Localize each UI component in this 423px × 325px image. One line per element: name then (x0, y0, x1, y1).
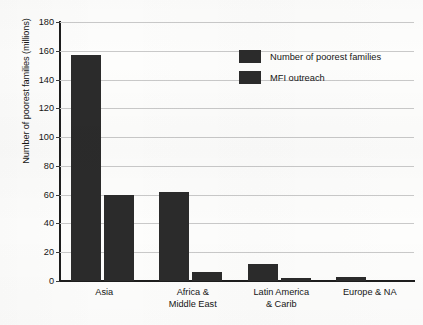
bar (159, 192, 189, 281)
y-axis-tick-label: 120 (28, 103, 54, 113)
gridline (60, 108, 414, 109)
y-axis-tick-mark (56, 223, 60, 224)
y-axis-tick-label: 20 (28, 247, 54, 257)
y-axis-tick-label: 100 (28, 132, 54, 142)
legend-label: MFI outreach (270, 73, 325, 83)
y-axis-tick-label: 140 (28, 75, 54, 85)
bar (71, 55, 101, 281)
gridline (60, 166, 414, 167)
bar (248, 264, 278, 281)
y-axis-tick-labels: 020406080100120140160180 (26, 22, 54, 281)
legend-item: MFI outreach (239, 71, 381, 84)
x-axis-category-label: Europe & NA (314, 287, 423, 299)
y-axis-tick-mark (56, 281, 60, 282)
y-axis-tick-mark (56, 195, 60, 196)
x-axis-category-label-line: & Carib (225, 299, 338, 311)
x-axis-category-label-line: Europe & NA (314, 287, 423, 299)
y-axis-tick-mark (56, 166, 60, 167)
bar (281, 278, 311, 281)
y-axis-tick-label: 160 (28, 46, 54, 56)
bar (336, 277, 366, 281)
legend-item: Number of poorest families (239, 50, 381, 63)
legend-label: Number of poorest families (270, 52, 381, 62)
y-axis-tick-mark (56, 137, 60, 138)
y-axis-tick-mark (56, 51, 60, 52)
bar (192, 272, 222, 281)
y-axis-tick-mark (56, 22, 60, 23)
y-axis-tick-mark (56, 80, 60, 81)
y-axis-tick-mark (56, 108, 60, 109)
gridline (60, 137, 414, 138)
y-axis-tick-label: 180 (28, 17, 54, 27)
bar-chart: Number of poorest families (millions) 02… (0, 0, 423, 325)
y-axis-tick-mark (56, 252, 60, 253)
chart-legend: Number of poorest families MFI outreach (239, 50, 381, 92)
y-axis-tick-label: 40 (28, 218, 54, 228)
legend-swatch-icon (239, 50, 261, 63)
legend-swatch-icon (239, 71, 261, 84)
y-axis-tick-label: 60 (28, 190, 54, 200)
bar (104, 195, 134, 281)
y-axis-tick-label: 0 (28, 276, 54, 286)
gridline (60, 22, 414, 23)
y-axis-tick-label: 80 (28, 161, 54, 171)
